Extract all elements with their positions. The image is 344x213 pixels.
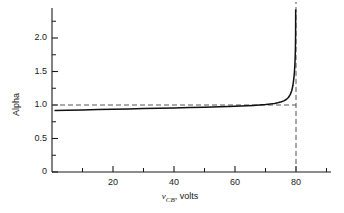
y-tick-label-2.0: 2.0 bbox=[24, 33, 47, 42]
y-tick-label-1.0: 1.0 bbox=[24, 100, 47, 109]
y-axis-title: Alpha bbox=[12, 85, 21, 125]
x-axis-title-unit: , volts bbox=[175, 191, 199, 201]
x-tick-label-20: 20 bbox=[101, 178, 125, 187]
x-tick-label-60: 60 bbox=[223, 178, 247, 187]
chart-figure: 2.0 1.5 1.0 0.5 0 20 40 60 80 Alpha vCB,… bbox=[0, 0, 344, 213]
x-axis-title: vCB, volts bbox=[132, 192, 228, 204]
x-tick-label-40: 40 bbox=[162, 178, 186, 187]
y-tick-label-0: 0 bbox=[24, 167, 47, 176]
y-axis-minor-ticks bbox=[52, 21, 56, 155]
alpha-curve bbox=[55, 10, 296, 111]
x-axis-minor-ticks bbox=[83, 168, 327, 172]
axis-spines bbox=[52, 8, 331, 172]
y-tick-label-1.5: 1.5 bbox=[24, 67, 47, 76]
x-tick-label-80: 80 bbox=[284, 178, 308, 187]
x-axis-title-subscript: CB bbox=[166, 196, 175, 204]
y-tick-label-0.5: 0.5 bbox=[24, 134, 47, 143]
